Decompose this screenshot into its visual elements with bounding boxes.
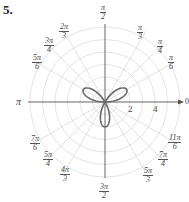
angle-label-5pi-6: 5π6 — [32, 54, 42, 71]
angle-label-4pi-3: 4π3 — [60, 166, 70, 183]
radial-tick-4: 4 — [153, 104, 158, 114]
angle-label-7pi-6: 7π6 — [30, 135, 40, 152]
angle-label-3pi-2: 3π2 — [99, 183, 109, 200]
angle-label-7pi-4: 7π4 — [158, 151, 168, 168]
angle-label-5pi-3: 5π3 — [143, 167, 153, 184]
angle-label-pi-6: π6 — [168, 54, 174, 71]
axis-arrow-icon — [178, 100, 184, 105]
angle-label-pi: π — [16, 98, 21, 106]
angle-label-pi-4: π4 — [157, 38, 163, 55]
angle-label-2pi-3: 2π3 — [59, 23, 69, 40]
angle-label-pi-3: π3 — [137, 24, 143, 41]
angle-label-5pi-4: 5π4 — [43, 151, 53, 168]
angle-label-3pi-4: 3π4 — [44, 37, 54, 54]
polar-plot — [0, 0, 189, 202]
angle-label-11pi-6: 11π6 — [168, 134, 181, 151]
angle-label-pi-2: π2 — [100, 4, 106, 21]
angle-label-0: 0 — [185, 98, 189, 106]
radial-tick-2: 2 — [128, 104, 133, 114]
